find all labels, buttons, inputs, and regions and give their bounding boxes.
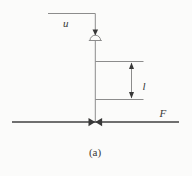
f-label: F — [159, 107, 167, 119]
valve-right-triangle-icon — [95, 118, 102, 126]
labels: u l F — [63, 17, 167, 120]
u-label: u — [63, 17, 69, 29]
figure-caption: (a) — [89, 146, 102, 159]
control-signal-arrowhead-icon — [93, 30, 99, 36]
l-label: l — [143, 80, 146, 92]
dimension-arrowhead-up-icon — [129, 63, 134, 70]
valve-left-triangle-icon — [89, 118, 96, 126]
actuator-dome-icon — [89, 35, 102, 40]
figure-canvas: u l F (a) — [0, 0, 192, 176]
dimension-arrowhead-down-icon — [129, 92, 134, 99]
schematic-diagram: u l F (a) — [0, 0, 192, 176]
